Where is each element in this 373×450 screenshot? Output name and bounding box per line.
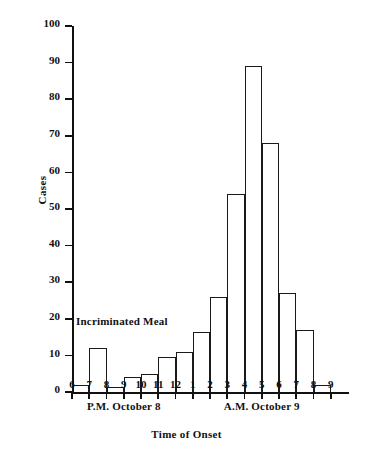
y-tick-mark [65, 62, 72, 64]
y-tick-mark [65, 172, 72, 174]
x-tick-mark [261, 392, 263, 399]
x-tick-mark [313, 392, 315, 399]
histogram-bar [262, 143, 279, 392]
epidemic-curve-histogram: Cases 0102030405060708090100 Incriminate… [0, 0, 373, 450]
bar-series [72, 26, 348, 392]
x-tick-mark [157, 392, 159, 399]
y-tick-label: 60 [49, 164, 60, 176]
y-tick-mark [65, 355, 72, 357]
x-tick-mark [106, 392, 108, 399]
x-axis-group-label: P.M. October 8 [64, 400, 184, 412]
y-tick: 70 [65, 135, 72, 137]
x-tick-mark [244, 392, 246, 399]
y-tick-mark [65, 208, 72, 210]
y-tick-mark [65, 245, 72, 247]
y-tick-mark [65, 135, 72, 137]
y-tick-label: 50 [49, 200, 60, 212]
x-tick-mark [330, 392, 332, 399]
y-tick: 30 [65, 281, 72, 283]
y-tick-mark [65, 98, 72, 100]
plot-area: 0102030405060708090100 Incriminated Meal [72, 26, 348, 392]
y-tick-label: 40 [49, 237, 60, 249]
y-tick-label: 70 [49, 127, 60, 139]
x-tick-mark [123, 392, 125, 399]
y-tick: 60 [65, 172, 72, 174]
y-tick-label: 100 [44, 17, 61, 29]
x-axis-group-label: A.M. October 9 [202, 400, 322, 412]
y-tick-label: 0 [55, 383, 61, 395]
y-tick: 100 [65, 25, 72, 27]
histogram-bar [227, 194, 244, 392]
x-tick-mark [192, 392, 194, 399]
y-tick: 90 [65, 62, 72, 64]
y-tick: 40 [65, 245, 72, 247]
y-tick-label: 90 [49, 54, 60, 66]
x-tick-label: 9 [321, 378, 341, 390]
y-axis-title: Cases [36, 150, 48, 230]
x-axis-title: Time of Onset [0, 428, 373, 440]
y-tick: 20 [65, 318, 72, 320]
histogram-bar [245, 66, 262, 392]
y-tick-mark [65, 318, 72, 320]
y-tick-label: 20 [49, 310, 60, 322]
x-tick-mark [71, 392, 73, 399]
y-tick-mark [65, 281, 72, 283]
y-tick: 50 [65, 208, 72, 210]
y-tick: 80 [65, 98, 72, 100]
y-tick: 10 [65, 355, 72, 357]
y-tick-label: 10 [49, 347, 60, 359]
x-tick-mark [226, 392, 228, 399]
x-tick-mark [140, 392, 142, 399]
y-tick-mark [65, 25, 72, 27]
x-tick-mark [295, 392, 297, 399]
y-tick-label: 30 [49, 273, 60, 285]
y-tick-label: 80 [49, 90, 60, 102]
x-tick-mark [175, 392, 177, 399]
x-tick-mark [88, 392, 90, 399]
x-tick-mark [278, 392, 280, 399]
incriminated-meal-annotation: Incriminated Meal [76, 315, 168, 327]
x-tick-mark [209, 392, 211, 399]
